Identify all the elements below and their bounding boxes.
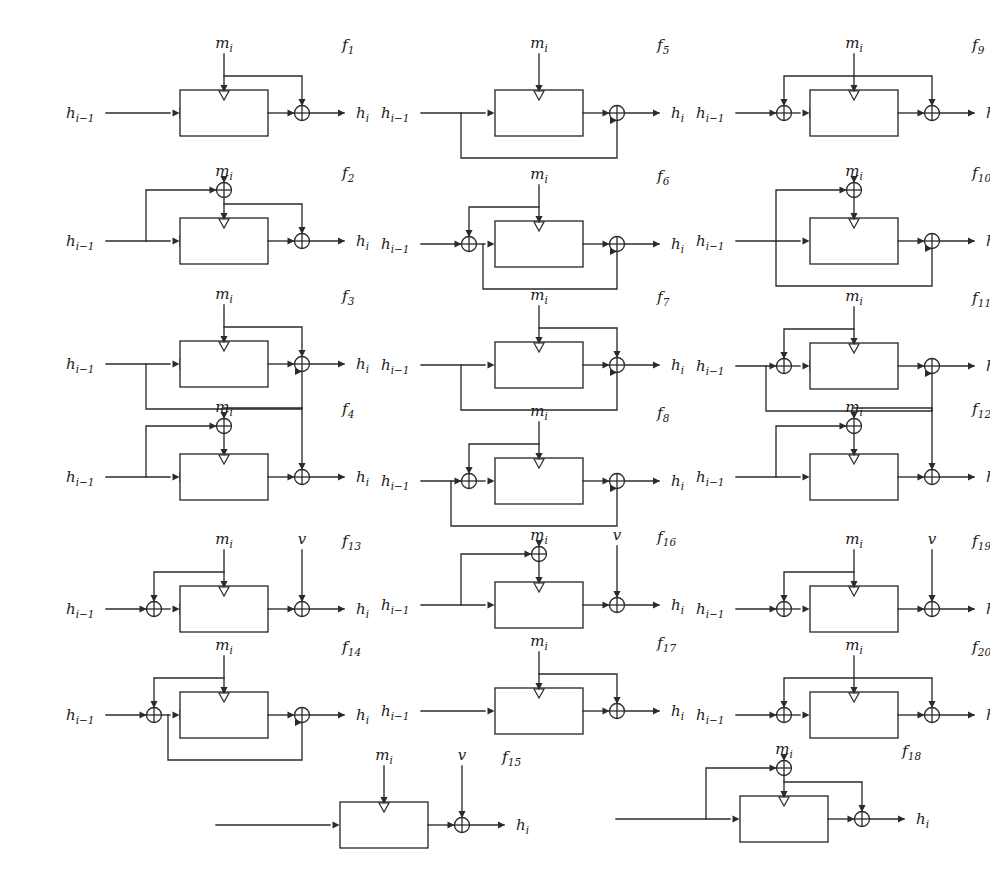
output-xor-gate [610, 704, 625, 719]
scheme-f12: hi−1himif12 [690, 396, 990, 531]
arrowhead-into-block [488, 109, 495, 116]
arrowhead-state-into-message-xor [840, 186, 847, 193]
arrowhead-state-into-message-xor [525, 550, 532, 557]
arrowhead-into-output-xor [288, 360, 295, 367]
arrowhead-constant-into-output-xor [298, 595, 305, 602]
arrowhead-into-block [488, 361, 495, 368]
label-input-state: hi−1 [381, 596, 410, 616]
arrowhead-output [338, 109, 345, 116]
label-input-state: hi−1 [696, 706, 725, 726]
scheme-f10: hi−1himif10 [690, 160, 990, 295]
arrowhead-into-output-xor [918, 109, 925, 116]
arrowhead-into-block [803, 109, 810, 116]
arrowhead-into-block [173, 237, 180, 244]
scheme-drawing-f10: hi−1himif10 [690, 160, 990, 295]
arrowhead-into-output-xor [918, 605, 925, 612]
message-xor-gate [847, 419, 862, 434]
label-scheme-f4: f4 [341, 400, 354, 420]
label-scheme-f8: f8 [656, 404, 670, 424]
arrowhead-into-input-xor-top [780, 99, 787, 106]
input-xor-gate [777, 359, 792, 374]
arrowhead-output [338, 605, 345, 612]
label-output-state: hi [356, 706, 369, 726]
arrowhead-into-output-xor [918, 362, 925, 369]
arrowhead-into-input-xor-top [780, 352, 787, 359]
arrowhead-into-block [173, 473, 180, 480]
label-output-state: hi [671, 472, 684, 492]
output-xor-gate [925, 602, 940, 617]
label-output-state: hi [671, 702, 684, 722]
label-input-state: hi−1 [696, 232, 725, 252]
message-xor-gate [847, 183, 862, 198]
arrowhead-into-input-xor-top [465, 230, 472, 237]
label-input-state: hi−1 [66, 355, 95, 375]
arrowhead-into-output-xor-top [298, 227, 305, 234]
label-message: mi [845, 287, 863, 307]
scheme-drawing-f5: hi−1himif5 [375, 32, 675, 167]
arrowhead-into-block [803, 362, 810, 369]
input-xor-gate [462, 474, 477, 489]
scheme-drawing-f4: hi−1himif4 [60, 396, 360, 531]
arrowhead-into-output-xor-top [928, 701, 935, 708]
arrowhead-into-output-xor [288, 473, 295, 480]
output-xor-gate [925, 708, 940, 723]
scheme-f8: hi−1himif8 [375, 400, 675, 535]
label-input-state: hi−1 [381, 702, 410, 722]
message-xor-gate [217, 183, 232, 198]
scheme-f9: hi−1himif9 [690, 32, 990, 167]
input-xor-gate [462, 237, 477, 252]
label-input-state: hi−1 [66, 232, 95, 252]
label-scheme-f14: f14 [341, 638, 361, 658]
label-input-state: hi−1 [66, 104, 95, 124]
label-scheme-f19: f19 [971, 532, 990, 552]
label-message: mi [530, 526, 548, 546]
arrowhead-into-block [488, 601, 495, 608]
label-scheme-f1: f1 [341, 36, 354, 56]
arrowhead-output [653, 477, 660, 484]
label-scheme-f6: f6 [656, 167, 670, 187]
label-message: mi [530, 286, 548, 306]
arrowhead-into-input-xor-top [465, 467, 472, 474]
arrowhead-state-into-message-xor [840, 422, 847, 429]
arrowhead-into-output-xor-top [298, 350, 305, 357]
arrowhead-into-block [803, 605, 810, 612]
arrowhead-into-output-xor [603, 707, 610, 714]
label-output-state: hi [671, 104, 684, 124]
message-xor-gate [532, 547, 547, 562]
arrowhead-output [968, 362, 975, 369]
label-input-state: hi−1 [381, 104, 410, 124]
arrowhead-into-output-xor-top [298, 463, 305, 470]
scheme-f5: hi−1himif5 [375, 32, 675, 167]
label-message: mi [215, 398, 233, 418]
label-scheme-f16: f16 [656, 528, 676, 548]
label-scheme-f7: f7 [656, 288, 670, 308]
input-xor-gate [147, 708, 162, 723]
arrowhead-into-input-xor [770, 605, 777, 612]
arrowhead-into-block [488, 240, 495, 247]
scheme-drawing-f1: hi−1himif1 [60, 32, 360, 167]
label-input-state: hi−1 [66, 468, 95, 488]
label-output-state: hi [671, 235, 684, 255]
arrowhead-into-input-xor-top [150, 595, 157, 602]
label-input-state: hi−1 [696, 468, 725, 488]
scheme-f7: hi−1himif7 [375, 284, 675, 419]
label-output-state: hi [356, 232, 369, 252]
output-xor-gate [455, 818, 470, 833]
arrowhead-into-block [803, 711, 810, 718]
input-xor-gate [777, 708, 792, 723]
label-output-state: hi [356, 104, 369, 124]
label-output-state: hi [516, 816, 529, 836]
label-constant: v [928, 530, 937, 548]
arrowhead-into-block [173, 605, 180, 612]
label-output-state: hi [356, 355, 369, 375]
input-xor-gate [777, 602, 792, 617]
label-input-state: hi−1 [66, 600, 95, 620]
arrowhead-into-output-xor [288, 109, 295, 116]
label-scheme-f13: f13 [341, 532, 361, 552]
label-scheme-f12: f12 [971, 400, 990, 420]
arrowhead-into-input-xor-top [150, 701, 157, 708]
output-xor-gate [295, 234, 310, 249]
arrowhead-into-output-xor [288, 237, 295, 244]
label-output-state: hi [986, 357, 990, 377]
